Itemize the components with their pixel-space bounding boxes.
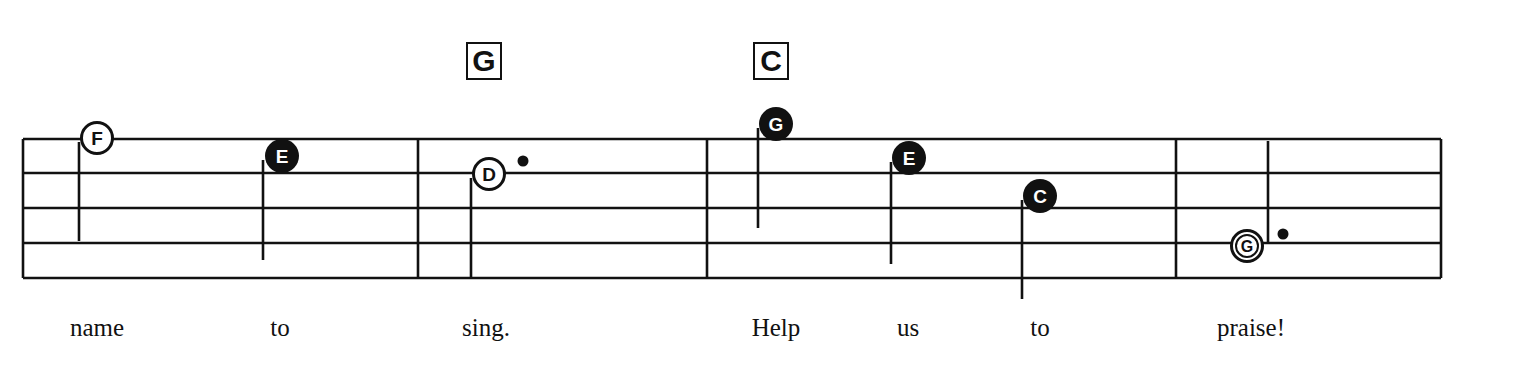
lyric-word: to — [1030, 314, 1049, 342]
note-letter: G — [769, 114, 784, 135]
dotted-note-dot — [1278, 229, 1289, 240]
lyric-word: Help — [752, 314, 801, 342]
note-letter: E — [903, 148, 916, 169]
lyric-word: praise! — [1217, 314, 1285, 342]
chord-box-g: G — [466, 42, 502, 80]
dotted-note-dot — [518, 156, 529, 167]
note-letter: E — [276, 146, 289, 167]
lyric-word: to — [270, 314, 289, 342]
lyric-word: sing. — [462, 314, 510, 342]
chord-box-c: C — [753, 42, 789, 80]
note-letter: G — [1241, 238, 1253, 255]
lyric-word: us — [897, 314, 919, 342]
lyric-word: name — [70, 314, 124, 342]
note-letter: F — [91, 128, 103, 149]
note-letter: D — [482, 164, 496, 185]
note-letter: C — [1033, 186, 1047, 207]
